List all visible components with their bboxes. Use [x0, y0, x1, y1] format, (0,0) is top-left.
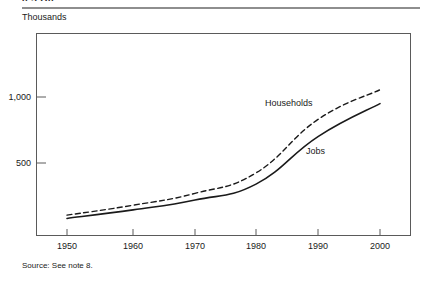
- x-axis-tick-label: 1950: [57, 241, 77, 251]
- y-axis-tick-label: 1,000: [0, 92, 31, 102]
- series-lines-group: [67, 90, 380, 219]
- x-axis-tick-label: 1970: [185, 241, 205, 251]
- x-axis-tick-label: 1960: [123, 241, 143, 251]
- series-line-jobs: [67, 104, 380, 219]
- series-line-households: [67, 90, 380, 215]
- x-axis-tick-label: 2000: [370, 241, 390, 251]
- series-label-households: Households: [265, 98, 313, 108]
- y-axis-tick-label: 500: [0, 158, 31, 168]
- x-axis-tick-label: 1990: [308, 241, 328, 251]
- x-axis-tick-label: 1980: [246, 241, 266, 251]
- chart-canvas: [0, 0, 427, 281]
- series-label-jobs: Jobs: [306, 146, 325, 156]
- source-note: Source: See note 8.: [22, 261, 93, 270]
